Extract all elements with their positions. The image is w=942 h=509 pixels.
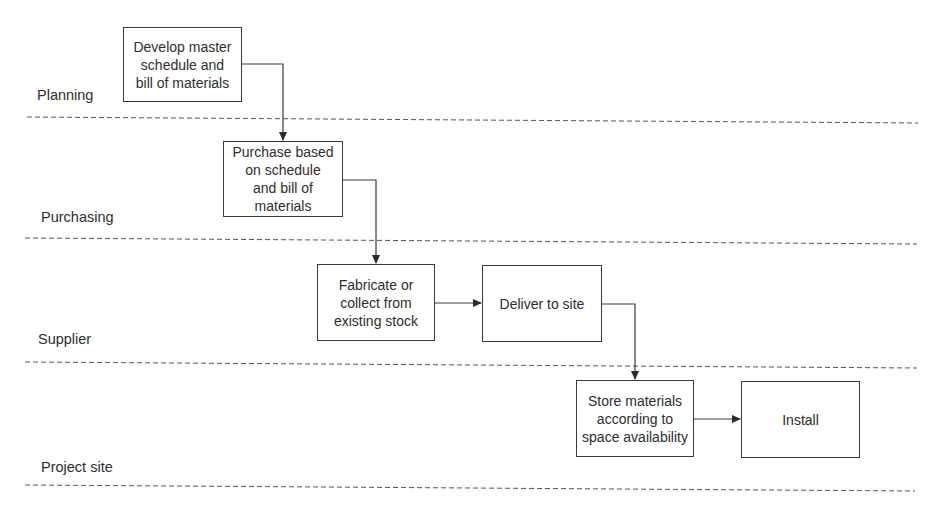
node-label: Purchase based on schedule and bill of m… (232, 143, 333, 215)
lane-divider-project-site (25, 485, 915, 491)
node-deliver-to-site: Deliver to site (482, 265, 602, 342)
lane-divider-supplier (25, 362, 917, 368)
lane-divider-planning (27, 117, 918, 123)
node-develop-master-schedule: Develop master schedule and bill of mate… (123, 27, 242, 102)
node-install: Install (741, 381, 860, 458)
node-label: Develop master schedule and bill of mate… (133, 38, 231, 92)
node-store-materials: Store materials according to space avail… (576, 380, 694, 457)
edge-n2-n3 (343, 180, 376, 263)
lane-label-supplier: Supplier (38, 331, 91, 347)
lane-label-project-site: Project site (41, 459, 113, 475)
node-label: Install (782, 411, 819, 429)
edge-n4-n5 (602, 304, 635, 379)
node-label: Deliver to site (500, 295, 585, 313)
node-purchase: Purchase based on schedule and bill of m… (223, 141, 343, 217)
edge-n1-n2 (242, 64, 283, 140)
node-fabricate-or-collect: Fabricate or collect from existing stock (317, 264, 435, 341)
lane-divider-purchasing (25, 238, 917, 244)
lane-label-purchasing: Purchasing (41, 209, 114, 225)
node-label: Store materials according to space avail… (582, 392, 688, 446)
node-label: Fabricate or collect from existing stock (334, 276, 418, 330)
lane-label-planning: Planning (37, 87, 93, 103)
